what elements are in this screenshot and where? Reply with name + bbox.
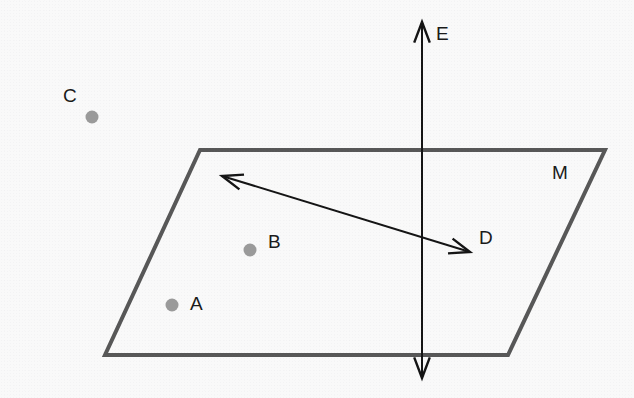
- point-a-dot: [166, 299, 179, 312]
- plane-m-label: M: [552, 163, 568, 182]
- point-a-label: A: [190, 294, 203, 313]
- line-d-label: D: [479, 228, 493, 247]
- point-c-label: C: [63, 86, 77, 105]
- plane-m-outline: [105, 150, 605, 355]
- line-e: [414, 22, 430, 378]
- line-d-shaft: [222, 176, 470, 252]
- line-e-label: E: [436, 24, 449, 43]
- point-b-dot: [244, 244, 257, 257]
- diagram-canvas: A B C D E M: [0, 0, 634, 398]
- point-c-dot: [86, 111, 99, 124]
- line-d: [222, 175, 470, 254]
- point-b-label: B: [268, 232, 281, 251]
- diagram-svg: [0, 0, 634, 398]
